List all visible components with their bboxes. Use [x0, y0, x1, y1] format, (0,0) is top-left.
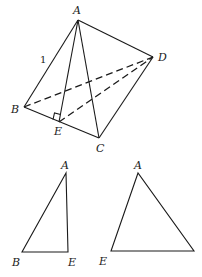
label-A-left-triangle: A	[60, 159, 69, 172]
label-A-top: A	[72, 4, 81, 17]
geometry-figure: A B C D E 1 A B E A E	[0, 0, 202, 277]
label-B-left-triangle: B	[11, 256, 20, 269]
edge-AD	[78, 20, 153, 57]
hidden-segment-ED	[59, 57, 153, 122]
label-D-top: D	[157, 51, 167, 64]
label-A-right-triangle: A	[133, 159, 142, 172]
tetrahedron	[24, 20, 153, 138]
edge-CD	[99, 57, 153, 138]
label-B-top: B	[10, 103, 19, 116]
triangle-AED	[111, 173, 194, 251]
triangle-ABE	[22, 173, 68, 252]
label-E-right-triangle: E	[98, 255, 107, 268]
label-E-left-triangle: E	[67, 256, 76, 269]
label-E-top: E	[53, 125, 62, 138]
label-C-top: C	[96, 142, 105, 155]
edge-length-label: 1	[40, 54, 46, 65]
